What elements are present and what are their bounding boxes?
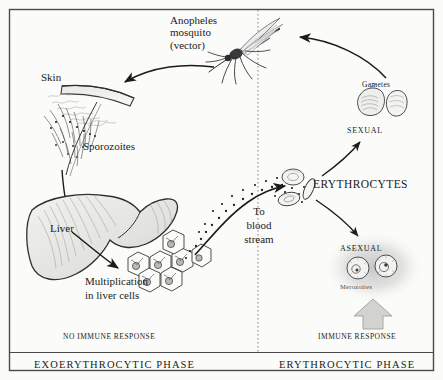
label-to-blood-stream: To blood stream [237, 205, 281, 246]
arrow-to-asexual-stage [316, 200, 358, 236]
label-gametes: Gametes [362, 81, 390, 89]
label-anopheles-mosquito: Anopheles mosquito (vector) [170, 14, 217, 51]
label-sporozoites: Sporozoites [83, 140, 135, 152]
label-exoerythrocytic-phase: EXOERYTHROCYTIC PHASE [34, 359, 195, 371]
immune-response-block-arrow [354, 299, 392, 329]
malaria-life-cycle-figure: Anopheles mosquito (vector) Skin Sporozo… [0, 0, 443, 380]
label-merozoites: Merozoites [340, 283, 372, 290]
label-sexual: SEXUAL [347, 127, 383, 136]
arrow-mosquito-to-skin [125, 65, 214, 82]
erythrocytes-illustration [277, 169, 318, 208]
anopheles-mosquito-illustration [206, 18, 283, 84]
label-erythrocytic-phase: ERYTHROCYTIC PHASE [279, 359, 415, 371]
label-immune-response: IMMUNE RESPONSE [318, 333, 396, 341]
label-asexual: ASEXUAL [340, 245, 382, 254]
label-no-immune-response: NO IMMUNE RESPONSE [63, 333, 155, 341]
label-multiplication-in-liver-cells: Multiplication in liver cells [85, 275, 148, 303]
arrow-to-sexual-stage [322, 142, 360, 176]
label-liver: Liver [50, 222, 74, 234]
label-skin: Skin [41, 71, 61, 83]
asexual-stage-illustration [322, 230, 426, 304]
label-erythrocytes: ERYTHROCYTES [313, 178, 408, 191]
skin-illustration [44, 86, 134, 177]
arrow-sexual-to-mosquito [300, 37, 386, 78]
